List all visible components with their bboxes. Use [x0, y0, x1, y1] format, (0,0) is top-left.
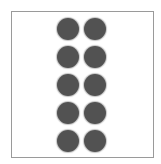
circle-dot: [84, 18, 106, 40]
circle-dot: [84, 130, 106, 152]
circle-dot: [57, 130, 79, 152]
circle-dot: [84, 74, 106, 96]
circle-dot: [57, 18, 79, 40]
circle-dot: [84, 102, 106, 124]
circle-dot: [84, 46, 106, 68]
circle-dot: [57, 46, 79, 68]
circle-dot: [57, 102, 79, 124]
figure-frame: [11, 11, 154, 158]
circle-dot: [57, 74, 79, 96]
